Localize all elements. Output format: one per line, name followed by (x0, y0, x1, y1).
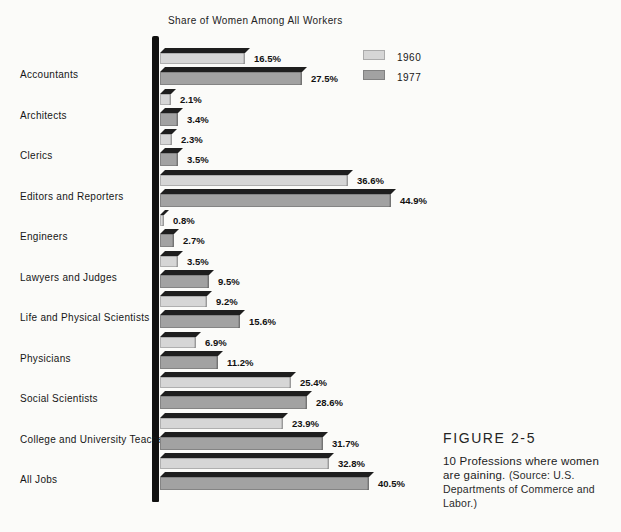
bar-1977 (160, 108, 178, 126)
bar-front-face (160, 53, 245, 64)
value-label: 2.7% (183, 235, 205, 246)
bar-1960 (160, 413, 283, 429)
value-label: 15.6% (249, 316, 276, 327)
value-label: 9.5% (218, 276, 240, 287)
bar-top-face (160, 229, 179, 234)
bar-top-face (160, 413, 288, 418)
bar-front-face (160, 437, 323, 450)
bar-1960 (160, 129, 172, 145)
value-label: 3.4% (187, 114, 209, 125)
bar-1977 (160, 351, 218, 369)
chart-row: Editors and Reporters36.6%44.9% (0, 170, 621, 210)
value-label: 36.6% (357, 175, 384, 186)
bar-1960 (160, 170, 348, 186)
category-label: Architects (20, 110, 67, 121)
value-label: 25.4% (300, 377, 327, 388)
bar-front-face (160, 296, 207, 307)
value-label: 31.7% (332, 438, 359, 449)
bar-top-face (160, 372, 296, 377)
bar-front-face (160, 396, 307, 409)
bar-front-face (160, 477, 369, 490)
category-label: Physicians (20, 353, 71, 364)
bar-front-face (160, 113, 178, 126)
value-label: 11.2% (227, 357, 253, 368)
bar-front-face (160, 377, 291, 388)
bar-front-face (160, 458, 329, 469)
chart-row: Engineers0.8%2.7% (0, 210, 621, 250)
figure-2-5-chart: Share of Women Among All Workers Account… (0, 0, 621, 532)
bar-top-face (160, 391, 312, 396)
bar-front-face (160, 94, 171, 105)
bar-1960 (160, 48, 245, 64)
category-label: All Jobs (20, 474, 57, 485)
bar-1960 (160, 332, 196, 348)
bar-top-face (160, 148, 183, 153)
bar-front-face (160, 215, 164, 226)
bar-1977 (160, 432, 323, 450)
legend-entry-1977: 1977 (363, 69, 443, 89)
bar-top-face (160, 472, 374, 477)
chart-row: Life and Physical Scientists9.2%15.6% (0, 291, 621, 331)
bar-1977 (160, 229, 174, 247)
category-label: Editors and Reporters (20, 191, 124, 202)
value-label: 6.9% (205, 337, 227, 348)
bar-front-face (160, 153, 178, 166)
bar-top-face (160, 89, 176, 94)
bar-front-face (160, 356, 218, 369)
category-label: Engineers (20, 231, 68, 242)
bar-1977 (160, 391, 307, 409)
bar-top-face (160, 210, 169, 215)
bar-top-face (160, 251, 183, 256)
chart-title: Share of Women Among All Workers (168, 15, 343, 26)
value-label: 32.8% (338, 458, 365, 469)
category-label: Social Scientists (20, 393, 98, 404)
figure-label: FIGURE 2-5 (443, 430, 611, 446)
chart-row: Lawyers and Judges3.5%9.5% (0, 251, 621, 291)
bar-1960 (160, 89, 171, 105)
category-label: College and University Teachers (20, 434, 173, 445)
bar-1977 (160, 310, 240, 328)
value-label: 9.2% (216, 296, 238, 307)
value-label: 3.5% (187, 154, 209, 165)
bar-top-face (160, 129, 177, 134)
bar-1960 (160, 251, 178, 267)
bar-top-face (160, 453, 334, 458)
value-label: 2.3% (181, 134, 203, 145)
bar-front-face (160, 418, 283, 429)
value-label: 0.8% (173, 215, 195, 226)
bar-top-face (160, 67, 307, 72)
value-label: 2.1% (180, 94, 202, 105)
bar-1977 (160, 148, 178, 166)
bar-top-face (160, 351, 223, 356)
bar-front-face (160, 315, 240, 328)
value-label: 44.9% (400, 195, 427, 206)
bar-top-face (160, 48, 250, 53)
bar-top-face (160, 332, 201, 337)
chart-row: Accountants16.5%27.5% (0, 48, 621, 88)
bar-1977 (160, 189, 391, 207)
category-label: Lawyers and Judges (20, 272, 117, 283)
value-label: 16.5% (254, 53, 281, 64)
category-label: Life and Physical Scientists (20, 312, 150, 323)
bar-1960 (160, 210, 164, 226)
figure-caption: FIGURE 2-5 10 Professions where women ar… (443, 430, 611, 510)
bar-1977 (160, 472, 369, 490)
legend-entry-1960: 1960 (363, 49, 443, 69)
bar-front-face (160, 194, 391, 207)
chart-row: Physicians6.9%11.2% (0, 332, 621, 372)
category-label: Accountants (20, 69, 78, 80)
bar-top-face (160, 432, 328, 437)
bar-front-face (160, 134, 172, 145)
bar-top-face (160, 310, 245, 315)
legend-swatch-1977-icon (363, 70, 385, 80)
value-label: 27.5% (311, 73, 338, 84)
bar-top-face (160, 108, 183, 113)
bar-top-face (160, 291, 212, 296)
bar-top-face (160, 270, 214, 275)
legend: 1960 1977 (363, 49, 443, 89)
bar-front-face (160, 175, 348, 186)
bar-front-face (160, 72, 302, 85)
value-label: 23.9% (292, 418, 319, 429)
bar-1960 (160, 291, 207, 307)
bar-1960 (160, 453, 329, 469)
